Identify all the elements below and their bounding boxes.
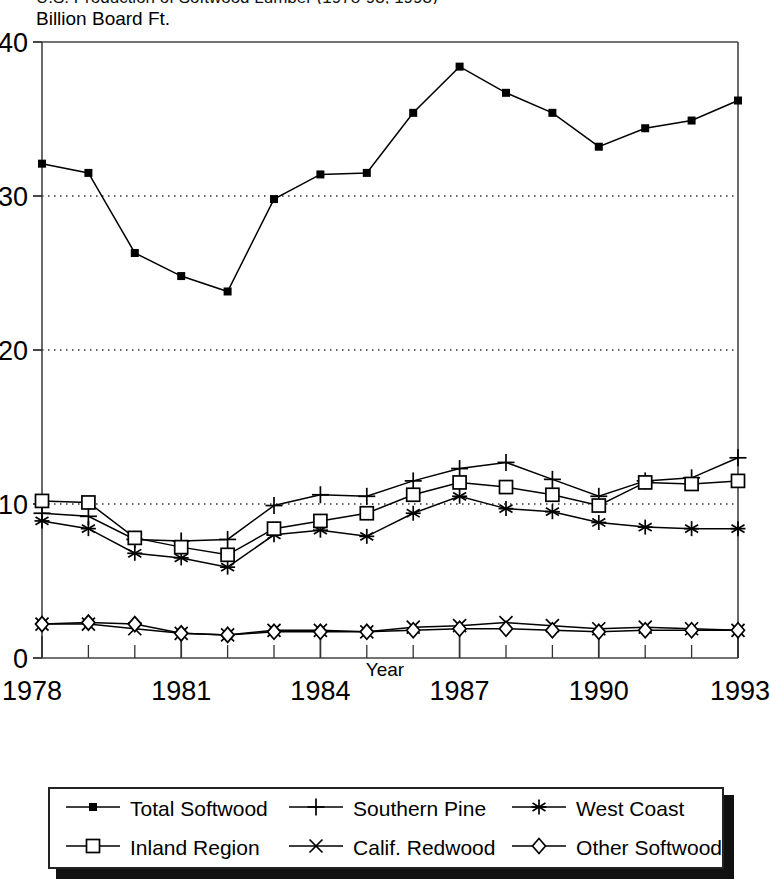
cross-icon [287,833,345,863]
legend-item-other-softwood[interactable]: Other Softwood [496,833,722,863]
legend-label: Calif. Redwood [353,836,495,860]
legend-label: Inland Region [130,836,260,860]
legend-item-inland-region[interactable]: Inland Region [50,833,273,863]
legend-item-total-softwood[interactable]: Total Softwood [50,794,273,824]
svg-text:20: 20 [0,336,28,366]
legend-label: Southern Pine [353,797,486,821]
chart-legend: Total SoftwoodSouthern PineWest CoastInl… [48,787,726,871]
legend-item-calif-redwood[interactable]: Calif. Redwood [273,833,496,863]
diamond-icon [510,833,568,863]
legend-label: Total Softwood [130,797,268,821]
svg-text:10: 10 [0,490,28,520]
svg-text:1993: 1993 [710,676,770,700]
legend-box: Total SoftwoodSouthern PineWest CoastInl… [48,787,724,869]
series-inland-region [36,474,745,561]
svg-text:40: 40 [0,28,28,58]
plus-icon [287,794,345,824]
legend-item-west-coast[interactable]: West Coast [496,794,722,824]
open-square-icon [64,833,122,863]
svg-text:1981: 1981 [151,676,211,700]
axis-tick-labels: 010203040197819811984198719901993 [0,28,770,700]
svg-text:30: 30 [0,182,28,212]
legend-item-southern-pine[interactable]: Southern Pine [273,794,496,824]
svg-text:1984: 1984 [290,676,350,700]
data-series-layer [34,63,747,643]
legend-label: West Coast [576,797,684,821]
grid-lines [42,196,738,504]
line-chart-plot: 010203040197819811984198719901993 Year [0,0,770,700]
asterisk-icon [510,794,568,824]
legend-label: Other Softwood [576,836,722,860]
x-axis-label: Year [366,659,405,680]
series-total-softwood [38,63,742,296]
svg-text:1978: 1978 [2,676,62,700]
svg-text:0: 0 [13,644,28,674]
svg-text:1987: 1987 [430,676,490,700]
series-calif-redwood [36,616,745,641]
filled-square-icon [64,794,122,824]
svg-text:1990: 1990 [569,676,629,700]
